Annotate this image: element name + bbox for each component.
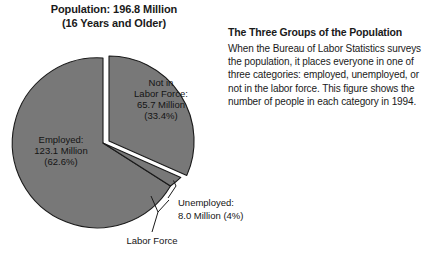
text-panel-heading: The Three Groups of the Population [228,26,428,39]
employed-label-line-3: (62.6%) [44,156,77,167]
notinlf-label-line-4: (33.4%) [144,110,177,121]
unemployed-label-line-2: 8.0 Million (4%) [178,210,243,221]
explanatory-text-panel: The Three Groups of the Population When … [228,26,428,108]
figure-container: Population: 196.8 Million (16 Years and … [0,0,433,258]
unemployed-callout: Unemployed: 8.0 Million (4%) [178,192,338,232]
pie-chart-panel: Population: 196.8 Million (16 Years and … [0,0,228,258]
unemployed-label-line-1: Unemployed: [178,197,234,208]
labor-force-group-label: Labor Force [126,235,177,246]
notinlf-label-line-3: 65.7 Million [137,99,185,110]
employed-label-line-2: 123.1 Million [34,145,87,156]
notinlf-label-line-1: Not in [149,77,174,88]
notinlf-label-line-2: Labor Force: [134,88,188,99]
text-panel-body: When the Bureau of Labor Statistics surv… [228,42,428,108]
employed-label-line-1: Employed: [39,134,84,145]
labor-force-leader-line-right [158,200,169,212]
